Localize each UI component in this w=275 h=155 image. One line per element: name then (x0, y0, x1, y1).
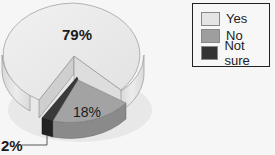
label-yes: 79% (62, 26, 92, 43)
legend-item-yes: Yes (201, 10, 269, 27)
label-not-sure: 2% (1, 137, 23, 154)
legend-swatch-not-sure (201, 46, 218, 60)
legend-swatch-no (201, 29, 220, 43)
legend-item-not-sure: Not sure (201, 44, 269, 61)
legend-label-not-sure: Not sure (224, 38, 269, 68)
legend-label-yes: Yes (226, 11, 247, 26)
legend-swatch-yes (201, 12, 220, 26)
slice-notsure-side (42, 118, 53, 137)
legend: Yes No Not sure (192, 3, 270, 67)
label-no: 18% (73, 104, 101, 120)
